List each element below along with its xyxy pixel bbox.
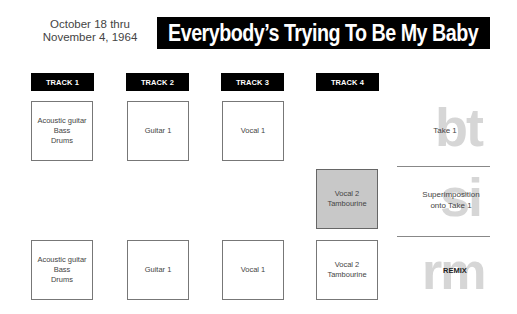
track-3-header: TRACK 3 xyxy=(221,73,284,91)
box-text: Guitar 1 xyxy=(145,265,172,275)
box-text: Vocal 2 xyxy=(327,260,366,270)
remix-track2-box: Guitar 1 xyxy=(127,240,189,300)
session-dates: October 18 thru November 4, 1964 xyxy=(32,18,148,44)
track-4-header: TRACK 4 xyxy=(316,73,379,91)
box-text: Guitar 1 xyxy=(145,126,172,136)
remix-label: REMIX xyxy=(420,265,490,276)
take1-track1-box: Acoustic guitar Bass Drums xyxy=(31,101,93,161)
box-text: Vocal 1 xyxy=(241,126,266,136)
box-text: Acoustic guitar xyxy=(37,116,86,126)
box-text: Tambourine xyxy=(327,199,366,209)
label-line: Superimposition xyxy=(406,189,496,200)
box-text: Bass xyxy=(37,265,86,275)
date-line-1: October 18 thru xyxy=(32,18,148,31)
superimposition-label: Superimposition onto Take 1 xyxy=(406,189,496,211)
box-text: Drums xyxy=(37,136,86,146)
box-text: Acoustic guitar xyxy=(37,255,86,265)
remix-track3-box: Vocal 1 xyxy=(222,240,284,300)
box-text: Tambourine xyxy=(327,270,366,280)
take1-track2-box: Guitar 1 xyxy=(127,101,189,161)
row-divider-2 xyxy=(397,236,490,237)
label-line: onto Take 1 xyxy=(406,200,496,211)
track-1-header: TRACK 1 xyxy=(31,73,94,91)
take1-track3-box: Vocal 1 xyxy=(222,101,284,161)
superimposition-track4-box: Vocal 2 Tambourine xyxy=(316,169,378,229)
song-title: Everybody’s Trying To Be My Baby xyxy=(168,19,478,47)
remix-track4-box: Vocal 2 Tambourine xyxy=(316,240,378,300)
box-text: Drums xyxy=(37,275,86,285)
take1-label: Take 1 xyxy=(400,125,490,136)
date-line-2: November 4, 1964 xyxy=(32,31,148,44)
box-text: Vocal 2 xyxy=(327,189,366,199)
track-2-header: TRACK 2 xyxy=(126,73,189,91)
box-text: Bass xyxy=(37,126,86,136)
remix-track1-box: Acoustic guitar Bass Drums xyxy=(31,240,93,300)
song-title-bar: Everybody’s Trying To Be My Baby xyxy=(157,17,490,49)
box-text: Vocal 1 xyxy=(241,265,266,275)
